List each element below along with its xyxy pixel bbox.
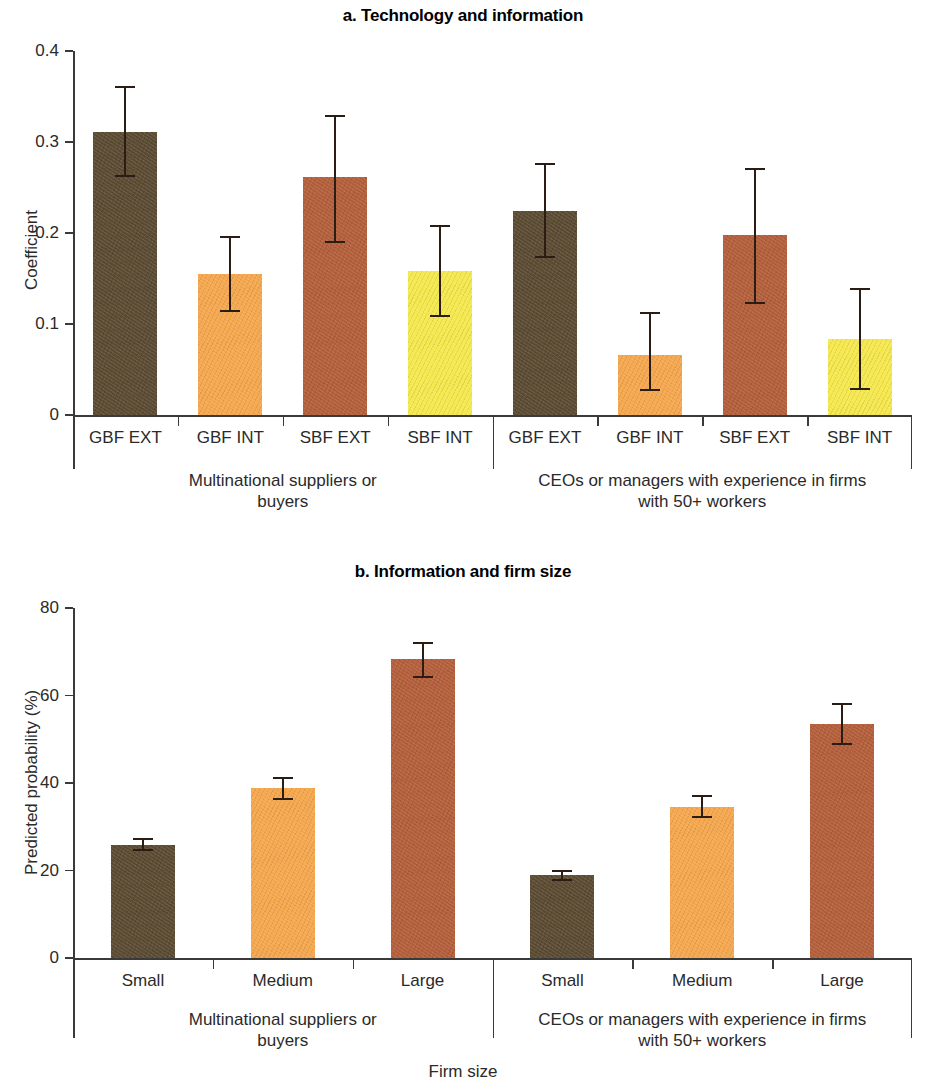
bar-texture bbox=[530, 875, 594, 958]
b-y-axis-label: Predicted probability (%) bbox=[22, 690, 42, 875]
error-bar-stem bbox=[282, 777, 284, 799]
b-y-tick-label: 80 bbox=[21, 598, 59, 618]
figure-container: a. Technology and information 00.10.20.3… bbox=[0, 0, 926, 1092]
error-bar-cap-upper bbox=[273, 777, 293, 779]
bar-b-large-g1 bbox=[391, 659, 455, 958]
bar-b-small-g1 bbox=[111, 845, 175, 958]
group-label-line: with 50+ workers bbox=[492, 1031, 912, 1052]
error-bar-cap-lower bbox=[413, 676, 433, 678]
b-y-tick bbox=[65, 870, 73, 872]
bar-texture bbox=[391, 659, 455, 958]
group-label-line: CEOs or managers with experience in firm… bbox=[492, 1010, 912, 1031]
b-y-tick bbox=[65, 957, 73, 959]
b-y-tick bbox=[65, 607, 73, 609]
b-group-label-1: Multinational suppliers orbuyers bbox=[73, 1010, 493, 1051]
b-y-tick bbox=[65, 782, 73, 784]
error-bar-cap-lower bbox=[273, 798, 293, 800]
b-y-tick-label: 0 bbox=[21, 948, 59, 968]
x-axis-title: Firm size bbox=[0, 1062, 926, 1082]
error-bar-cap-upper bbox=[133, 838, 153, 840]
category-label-small: Small bbox=[122, 971, 165, 991]
panel-b-plot: 020406080Predicted probability (%)SmallM… bbox=[0, 0, 926, 1092]
category-label-small: Small bbox=[541, 971, 584, 991]
b-x-tick bbox=[772, 960, 774, 969]
error-bar-cap-upper bbox=[832, 703, 852, 705]
error-bar-cap-lower bbox=[692, 816, 712, 818]
bar-b-medium-g1 bbox=[251, 788, 315, 958]
bar-texture bbox=[111, 845, 175, 958]
b-group-label-2: CEOs or managers with experience in firm… bbox=[492, 1010, 912, 1051]
category-label-medium: Medium bbox=[253, 971, 313, 991]
error-bar-stem bbox=[841, 703, 843, 745]
error-bar-cap-lower bbox=[832, 743, 852, 745]
b-x-tick bbox=[353, 960, 355, 969]
b-x-tick bbox=[632, 960, 634, 969]
group-label-line: buyers bbox=[73, 1031, 493, 1052]
bar-texture bbox=[670, 807, 734, 958]
bar-texture bbox=[251, 788, 315, 958]
error-bar-cap-upper bbox=[413, 642, 433, 644]
category-label-large: Large bbox=[401, 971, 444, 991]
error-bar-cap-upper bbox=[692, 795, 712, 797]
error-bar-cap-lower bbox=[552, 879, 572, 881]
error-bar-cap-upper bbox=[552, 870, 572, 872]
error-bar-stem bbox=[422, 642, 424, 678]
b-y-axis-line bbox=[73, 608, 75, 958]
error-bar-cap-lower bbox=[133, 849, 153, 851]
category-label-large: Large bbox=[820, 971, 863, 991]
bar-b-small-g2 bbox=[530, 875, 594, 958]
bar-texture bbox=[810, 724, 874, 959]
category-label-medium: Medium bbox=[672, 971, 732, 991]
error-bar-stem bbox=[701, 795, 703, 819]
b-x-tick bbox=[213, 960, 215, 969]
bar-b-large-g2 bbox=[810, 724, 874, 959]
group-label-line: Multinational suppliers or bbox=[73, 1010, 493, 1031]
b-y-tick bbox=[65, 695, 73, 697]
bar-b-medium-g2 bbox=[670, 807, 734, 958]
